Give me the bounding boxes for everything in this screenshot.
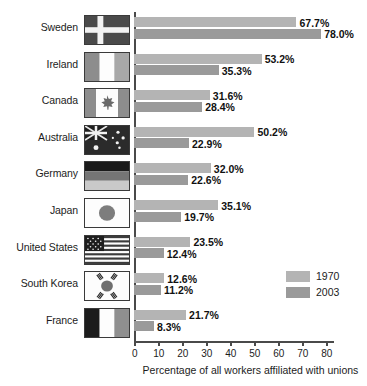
bar-value-label: 8.3%: [157, 322, 181, 332]
x-tick: [254, 341, 256, 346]
x-tick-label: 40: [225, 348, 236, 359]
x-tick-label: 70: [297, 348, 308, 359]
x-tick-label: 60: [273, 348, 284, 359]
bar-value-label: 28.4%: [205, 102, 235, 112]
bar-1970: [134, 310, 186, 320]
flag-canada-icon: [84, 88, 130, 118]
x-tick: [278, 341, 280, 346]
bar-2003: [134, 29, 321, 39]
x-tick-label: 10: [153, 348, 164, 359]
country-label: France: [0, 314, 78, 326]
union-membership-bar-chart: Sweden 67.7%78.0%Ireland 53.2%35.3%Canad…: [0, 0, 367, 386]
flag-japan-icon: [84, 198, 130, 228]
bar-1970: [134, 17, 296, 27]
bar-value-label: 11.2%: [164, 285, 193, 295]
bar-1970: [134, 90, 210, 100]
chart-row: Australia 50.2%22.9%: [0, 122, 367, 159]
bar-value-label: 67.7%: [299, 18, 329, 28]
bar-1970: [134, 273, 164, 283]
bar-2003: [134, 102, 202, 112]
bar-value-label: 50.2%: [257, 127, 287, 137]
bar-1970: [134, 237, 190, 247]
x-tick-label: 0: [132, 348, 138, 359]
chart-row: Sweden 67.7%78.0%: [0, 12, 367, 49]
x-tick-label: 20: [177, 348, 188, 359]
bar-2003: [134, 65, 219, 75]
x-tick: [158, 341, 160, 346]
chart-row: Japan 35.1%19.7%: [0, 195, 367, 232]
bar-1970: [134, 163, 211, 173]
bar-value-label: 12.4%: [167, 249, 197, 259]
country-label: Canada: [0, 94, 78, 106]
bar-2003: [134, 248, 164, 258]
chart-row: South Korea: [0, 268, 367, 305]
flag-ireland-icon: [84, 52, 130, 82]
country-label: South Korea: [0, 277, 78, 289]
bar-value-label: 32.0%: [214, 164, 244, 174]
legend-swatch-2003: [286, 287, 310, 298]
bar-value-label: 78.0%: [324, 29, 354, 39]
x-tick-label: 30: [201, 348, 212, 359]
bar-2003: [134, 212, 181, 222]
bar-value-label: 21.7%: [189, 310, 219, 320]
x-tick: [230, 341, 232, 346]
legend-label-2003: 2003: [316, 286, 339, 298]
chart-row: Ireland 53.2%35.3%: [0, 49, 367, 86]
bar-2003: [134, 321, 154, 331]
flag-united-states-icon: [84, 235, 130, 265]
bar-2003: [134, 175, 188, 185]
x-tick: [206, 341, 208, 346]
bar-1970: [134, 200, 218, 210]
country-label: Germany: [0, 167, 78, 179]
x-tick-label: 50: [249, 348, 260, 359]
x-tick-label: 80: [321, 348, 332, 359]
x-tick: [134, 341, 136, 346]
country-label: Sweden: [0, 21, 78, 33]
bar-value-label: 19.7%: [184, 212, 214, 222]
country-label: United States: [0, 241, 78, 253]
chart-row: United States 23.5%12.4%: [0, 232, 367, 269]
chart-row: Canada 31.6%28.4%: [0, 85, 367, 122]
bar-value-label: 12.6%: [167, 274, 197, 284]
x-tick: [326, 341, 328, 346]
bar-1970: [134, 127, 254, 137]
country-label: Japan: [0, 204, 78, 216]
x-tick: [182, 341, 184, 346]
flag-south-korea-icon: [84, 271, 130, 301]
chart-row: Germany 32.0%22.6%: [0, 158, 367, 195]
flag-australia-icon: [84, 125, 130, 155]
bar-value-label: 35.3%: [222, 66, 252, 76]
country-label: Australia: [0, 131, 78, 143]
flag-germany-icon: [84, 161, 130, 191]
bar-value-label: 31.6%: [213, 91, 243, 101]
legend-label-1970: 1970: [316, 270, 339, 282]
flag-sweden-icon: [84, 15, 130, 45]
flag-france-icon: [84, 308, 130, 338]
bar-value-label: 22.6%: [191, 175, 221, 185]
x-tick: [302, 341, 304, 346]
bar-1970: [134, 54, 262, 64]
legend-swatch-1970: [286, 271, 310, 282]
country-label: Ireland: [0, 58, 78, 70]
bar-value-label: 23.5%: [193, 237, 223, 247]
bar-value-label: 22.9%: [192, 139, 222, 149]
chart-row: France 21.7%8.3%: [0, 305, 367, 342]
bar-value-label: 53.2%: [265, 54, 295, 64]
bar-2003: [134, 138, 189, 148]
x-axis-title: Percentage of all workers affiliated wit…: [134, 364, 367, 376]
bar-value-label: 35.1%: [221, 201, 251, 211]
bar-2003: [134, 285, 161, 295]
